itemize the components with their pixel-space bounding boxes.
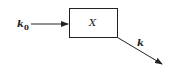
box-label: X bbox=[89, 18, 96, 28]
input-label-base: k bbox=[17, 18, 24, 29]
input-label: k0 bbox=[17, 19, 29, 31]
input-label-subscript: 0 bbox=[24, 23, 29, 32]
output-label: k bbox=[137, 38, 144, 48]
diagram-canvas bbox=[0, 0, 178, 73]
